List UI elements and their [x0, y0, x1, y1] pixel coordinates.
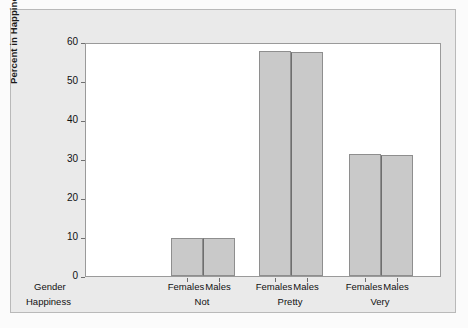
- y-tick-label: 50: [67, 75, 78, 86]
- x-label-gender: Males: [372, 281, 420, 292]
- x-label-happiness: Very: [340, 296, 420, 307]
- axis-row-title-gender: Gender: [34, 281, 66, 292]
- y-tick-label: 10: [67, 231, 78, 242]
- x-axis-ticks: [86, 44, 440, 276]
- x-label-happiness: Pretty: [250, 296, 330, 307]
- x-axis-labels: FemalesMalesNotFemalesMalesPrettyFemales…: [85, 281, 441, 321]
- x-label-happiness: Not: [162, 296, 242, 307]
- x-label-gender: Males: [282, 281, 330, 292]
- plot-area: [85, 43, 441, 277]
- x-label-gender: Males: [194, 281, 242, 292]
- y-tick-label: 40: [67, 114, 78, 125]
- axis-row-title-happiness: Happiness: [26, 296, 71, 307]
- y-tick-mark: [81, 277, 85, 278]
- y-tick-label: 30: [67, 153, 78, 164]
- figure-page: Percent in Happiness Category 0102030405…: [0, 0, 468, 328]
- y-tick-label: 60: [67, 36, 78, 47]
- y-axis-ticks: 0102030405060: [0, 43, 85, 277]
- y-tick-label: 20: [67, 192, 78, 203]
- y-tick-label: 0: [72, 270, 78, 281]
